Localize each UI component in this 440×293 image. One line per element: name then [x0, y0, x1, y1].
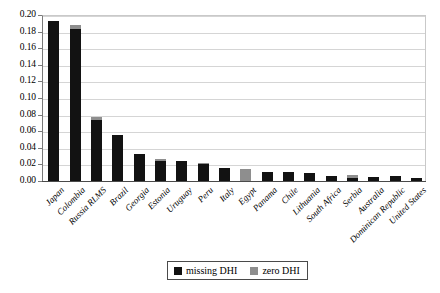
bar-segment-missing-dhi: [198, 164, 209, 181]
bar-segment-missing-dhi: [70, 29, 81, 181]
bar: [198, 163, 209, 181]
bar: [283, 172, 294, 181]
legend-label-zero-dhi: zero DHI: [262, 265, 299, 276]
y-axis-tick-label: 0.06: [0, 126, 36, 136]
gridline: [43, 99, 425, 100]
y-axis-tick-mark: [38, 164, 42, 165]
gridline: [43, 16, 425, 17]
y-axis-tick-mark: [38, 81, 42, 82]
legend-swatch-zero-dhi: [250, 267, 258, 275]
y-axis-tick-label: 0.20: [0, 10, 36, 20]
y-axis-tick-label: 0.18: [0, 27, 36, 37]
gridline: [43, 66, 425, 67]
bar-segment-missing-dhi: [283, 172, 294, 181]
bar: [304, 173, 315, 181]
legend-label-missing-dhi: missing DHI: [186, 265, 237, 276]
bar: [240, 169, 251, 181]
bar-segment-missing-dhi: [134, 154, 145, 181]
y-axis-tick-mark: [38, 98, 42, 99]
y-axis-tick-mark: [38, 181, 42, 182]
legend-item: zero DHI: [250, 265, 299, 276]
y-axis-tick-label: 0.16: [0, 43, 36, 53]
bar: [70, 25, 81, 181]
y-axis-tick-mark: [38, 65, 42, 66]
y-axis-tick-mark: [38, 32, 42, 33]
legend-item: missing DHI: [174, 265, 237, 276]
bar: [262, 172, 273, 181]
bar-segment-missing-dhi: [91, 120, 102, 181]
y-axis-tick-label: 0.02: [0, 159, 36, 169]
gridline: [43, 33, 425, 34]
bar-segment-missing-dhi: [155, 161, 166, 181]
y-axis-tick-label: 0.04: [0, 143, 36, 153]
bar: [48, 21, 59, 181]
legend: missing DHI zero DHI: [167, 261, 308, 280]
y-axis-tick-mark: [38, 131, 42, 132]
y-axis-tick-label: 0.08: [0, 110, 36, 120]
y-axis-tick-label: 0.14: [0, 60, 36, 70]
gridline: [43, 49, 425, 50]
bar: [155, 159, 166, 181]
y-axis-tick-label: 0.12: [0, 76, 36, 86]
bar-segment-missing-dhi: [304, 173, 315, 181]
bar: [219, 168, 230, 181]
bar-segment-missing-dhi: [262, 172, 273, 181]
x-axis-line: [42, 181, 426, 182]
plot-area: [42, 15, 426, 181]
bar-segment-missing-dhi: [219, 168, 230, 181]
bar: [176, 161, 187, 181]
bar: [91, 117, 102, 181]
gridline: [43, 82, 425, 83]
bar-segment-missing-dhi: [176, 161, 187, 181]
bar: [134, 154, 145, 181]
y-axis-tick-mark: [38, 148, 42, 149]
legend-swatch-missing-dhi: [174, 267, 182, 275]
bar-segment-missing-dhi: [112, 135, 123, 181]
y-axis-tick-mark: [38, 115, 42, 116]
y-axis-tick-label: 0.00: [0, 176, 36, 186]
bar-segment-zero-dhi: [240, 169, 251, 181]
y-axis-tick-mark: [38, 48, 42, 49]
chart-container: 0.200.180.160.140.120.100.080.060.040.02…: [0, 0, 440, 293]
y-axis-tick-mark: [38, 15, 42, 16]
bar: [112, 135, 123, 181]
bar-segment-missing-dhi: [48, 21, 59, 181]
y-axis-tick-label: 0.10: [0, 93, 36, 103]
